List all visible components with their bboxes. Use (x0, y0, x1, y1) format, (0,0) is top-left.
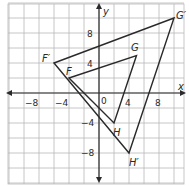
x-tick-4: 4 (125, 98, 131, 108)
vertex-label-g-prime: G′ (176, 10, 187, 21)
y-tick-8: 8 (87, 29, 93, 39)
vertex-label-h: H (113, 127, 121, 138)
triangle-fgh (69, 56, 137, 124)
vertex-label-h-prime: H′ (129, 157, 140, 168)
vertex-label-f: F (66, 66, 72, 77)
y-axis-label: y (102, 6, 110, 17)
vertex-label-g: G (131, 42, 139, 53)
x-axis-label: x (177, 81, 184, 92)
origin-label: 0 (101, 96, 107, 106)
coordinate-plane: y x 0 −8 −4 4 8 8 4 −4 −8 F G H F′ G′ H′ (0, 0, 189, 186)
x-tick-neg8: −8 (25, 98, 39, 108)
vertex-label-f-prime: F′ (42, 53, 51, 64)
y-tick-neg4: −4 (81, 118, 95, 128)
x-tick-neg4: −4 (55, 98, 69, 108)
y-tick-neg8: −8 (81, 148, 95, 158)
x-tick-8: 8 (155, 98, 161, 108)
y-axis-down-arrow-icon (96, 177, 102, 183)
y-tick-4: 4 (87, 59, 93, 69)
